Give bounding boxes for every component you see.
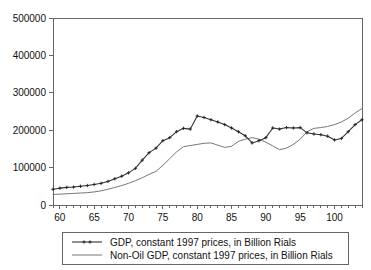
y-tick-label: 0: [40, 200, 46, 211]
x-tick-label: 65: [89, 212, 101, 223]
nonoil-gdp-line: [53, 109, 362, 195]
y-tick-label: 400000: [13, 50, 47, 61]
x-tick-label: 75: [157, 212, 169, 223]
chart-container: 0100000200000300000400000500000 60657075…: [0, 0, 371, 270]
x-tick-label: 95: [295, 212, 307, 223]
x-tick-label: 85: [226, 212, 238, 223]
y-tick-label: 500000: [13, 13, 47, 24]
x-tick-label: 90: [260, 212, 272, 223]
y-axis-group: 0100000200000300000400000500000: [13, 13, 53, 211]
legend-label-gdp: GDP, constant 1997 prices, in Billion Ri…: [110, 237, 296, 248]
x-tick-label: 100: [326, 212, 343, 223]
y-tick-label: 100000: [13, 162, 47, 173]
legend-label-nonoil: Non-Oil GDP, constant 1997 prices, in Bi…: [110, 250, 333, 261]
series-gdp: [51, 114, 363, 191]
line-chart: 0100000200000300000400000500000 60657075…: [0, 0, 371, 270]
x-tick-label: 80: [192, 212, 204, 223]
x-axis-group: 6065707580859095100: [53, 205, 362, 223]
x-tick-label: 70: [123, 212, 135, 223]
y-tick-label: 300000: [13, 87, 47, 98]
x-tick-label: 60: [54, 212, 66, 223]
y-tick-label: 200000: [13, 125, 47, 136]
gdp-line: [53, 116, 362, 189]
series-nonoil-gdp: [53, 109, 362, 195]
legend: GDP, constant 1997 prices, in Billion Ri…: [62, 232, 348, 264]
